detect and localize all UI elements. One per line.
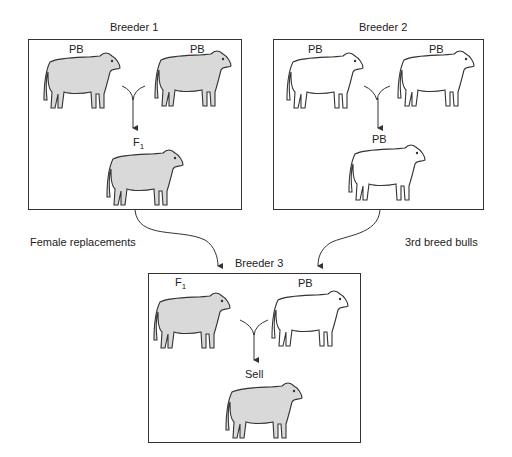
flow-left-label: Female replacements xyxy=(30,236,136,248)
flow-right-label: 3rd breed bulls xyxy=(405,236,478,248)
b3-parent-left-subscript: 1 xyxy=(182,282,186,291)
cow-icon xyxy=(398,51,474,106)
b2-offspring-label: PB xyxy=(372,133,387,145)
diagram-graphics xyxy=(0,0,512,457)
b1-offspring-label: F1 xyxy=(133,136,144,151)
cow-icon xyxy=(155,51,231,106)
b3-parent-right-label: PB xyxy=(298,277,313,289)
b1-parent-left-label: PB xyxy=(69,43,84,55)
b2-parent-right-label: PB xyxy=(429,43,444,55)
cow-icon xyxy=(287,53,363,108)
cow-icon xyxy=(349,145,425,200)
cow-icon xyxy=(272,291,348,346)
breeder2-title: Breeder 2 xyxy=(359,21,407,33)
cow-icon xyxy=(44,53,120,108)
cow-icon xyxy=(107,150,183,205)
b1-offspring-text: F xyxy=(133,136,140,148)
b3-parent-left-text: F xyxy=(175,276,182,288)
breeder3-title: Breeder 3 xyxy=(235,257,283,269)
b1-parent-right-label: PB xyxy=(190,43,205,55)
cow-icon xyxy=(154,293,230,348)
breeder1-title: Breeder 1 xyxy=(110,21,158,33)
b1-offspring-subscript: 1 xyxy=(140,142,144,151)
b3-offspring-label: Sell xyxy=(245,368,263,380)
cow-icon xyxy=(226,383,302,438)
b3-parent-left-label: F1 xyxy=(175,276,186,291)
b2-parent-left-label: PB xyxy=(308,43,323,55)
